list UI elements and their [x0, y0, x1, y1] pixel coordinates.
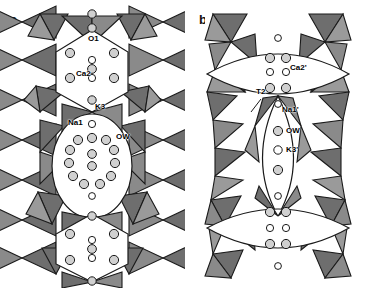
- panel-b: b: [185, 0, 371, 288]
- atom-group-lower-junction-a: [88, 212, 96, 220]
- atom-label-k3-prime: K3': [286, 146, 298, 154]
- atom-label-o1: O1: [88, 35, 99, 43]
- atom-label-k3: K3: [95, 103, 105, 111]
- atom-label-ca2: Ca2: [76, 70, 91, 78]
- atom-group-top-b: [275, 35, 282, 42]
- atom-label-ow: OW: [116, 133, 130, 141]
- atom-group-na1-b: [275, 101, 282, 108]
- panel-a-svg: [0, 0, 185, 288]
- panel-a: a: [0, 0, 185, 288]
- atom-label-na1-prime: Na1': [282, 106, 299, 114]
- crystal-structure-figure: a: [0, 0, 371, 288]
- atom-label-t2: T2: [256, 88, 265, 96]
- atom-label-ow-b: OW: [286, 127, 300, 135]
- panel-b-structure: [185, 0, 371, 288]
- atom-label-na1: Na1: [68, 119, 83, 127]
- panel-a-structure: [0, 0, 185, 288]
- atom-label-ca2-prime: Ca2': [290, 64, 307, 72]
- panel-b-svg: [185, 0, 371, 288]
